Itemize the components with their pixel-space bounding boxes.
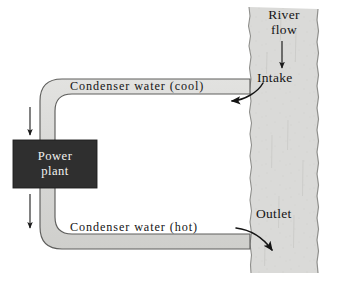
- river-flow-label-line1: River: [258, 8, 310, 23]
- figure-canvas: River flow Intake Outlet Condenser water…: [0, 0, 337, 282]
- outlet-label: Outlet: [256, 207, 292, 222]
- intake-label: Intake: [257, 71, 293, 86]
- condenser-water-hot-label: Condenser water (hot): [70, 221, 198, 234]
- cooling-diagram: [0, 0, 337, 282]
- river-band: [249, 7, 319, 273]
- condenser-water-cool-label: Condenser water (cool): [70, 80, 204, 93]
- power-plant-label: Power plant: [13, 149, 97, 179]
- river-flow-label-line2: flow: [258, 23, 310, 38]
- river-water: [249, 7, 319, 273]
- power-plant-label-line2: plant: [13, 164, 97, 179]
- power-plant-label-line1: Power: [13, 149, 97, 164]
- river-flow-label: River flow: [258, 8, 310, 37]
